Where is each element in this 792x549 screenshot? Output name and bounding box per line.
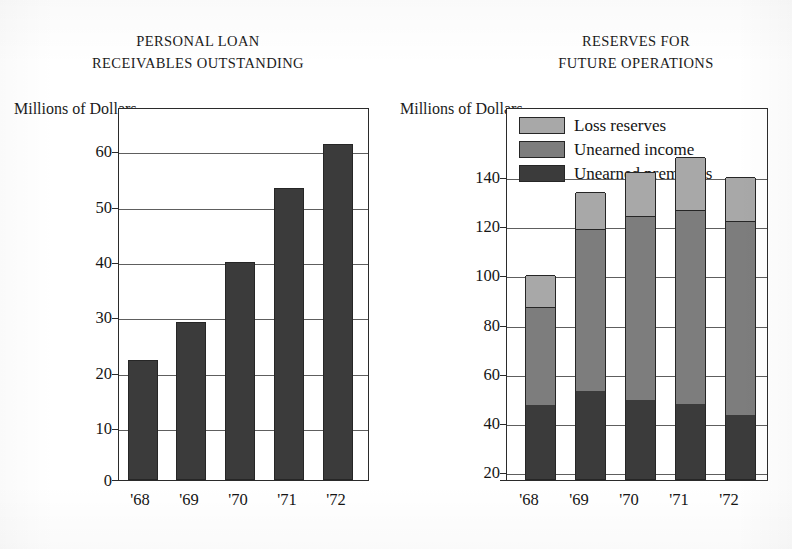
segment-loss-reserves-1968 [526, 275, 555, 307]
chart-title-reserves: RESERVES FOR FUTURE OPERATIONS [506, 30, 766, 74]
figure-page: PERSONAL LOAN RECEIVABLES OUTSTANDING Mi… [0, 0, 792, 549]
segment-loss-reserves-1970 [626, 172, 655, 216]
chart-title-personal-loan: PERSONAL LOAN RECEIVABLES OUTSTANDING [36, 30, 360, 74]
tickmark-40 [500, 424, 506, 425]
legend-item-loss-reserves[interactable]: Loss reserves [519, 114, 712, 136]
ytick-label-60: 60 [58, 144, 112, 161]
segment-unearned-premiums-1968 [526, 405, 555, 479]
y-axis-unit-label-left: Millions of Dollars [14, 99, 114, 120]
tickmark-80 [500, 326, 506, 327]
ytick-label-30: 30 [58, 310, 112, 327]
tickmark-100 [500, 276, 506, 277]
bar-1972 [323, 144, 353, 480]
tickmark-20 [500, 473, 506, 474]
ytick-label-120: 120 [436, 219, 500, 236]
ytick-label-40: 40 [436, 416, 500, 433]
segment-unearned-income-1971 [676, 210, 705, 404]
xtick-label-1972: '72 [303, 492, 369, 509]
legend-swatch-unearned-premiums-icon [519, 165, 565, 182]
segment-unearned-premiums-1972 [726, 415, 755, 479]
segment-loss-reserves-1971 [676, 157, 705, 210]
stacked-bar-1969 [575, 193, 606, 480]
tickmark-40 [112, 263, 118, 264]
bar-1971 [274, 188, 304, 480]
ytick-label-100: 100 [436, 268, 500, 285]
unit-line-1: Millions [14, 100, 68, 117]
legend-label-loss-reserves: Loss reserves [574, 117, 666, 134]
ytick-label-0: 0 [58, 473, 112, 490]
chart-panel-reserves: RESERVES FOR FUTURE OPERATIONS Millions … [396, 0, 792, 549]
stacked-bar-1968 [525, 276, 556, 480]
segment-unearned-income-1968 [526, 307, 555, 405]
tickmark-10 [112, 429, 118, 430]
segment-unearned-income-1972 [726, 221, 755, 415]
bar-1968 [128, 360, 158, 480]
tickmark-0 [112, 480, 118, 481]
tickmark-60 [500, 375, 506, 376]
stacked-bar-1971 [675, 158, 706, 480]
chart-title-line-1: RESERVES FOR [506, 30, 766, 52]
legend-label-unearned-income: Unearned income [574, 141, 694, 158]
tickmark-50 [112, 208, 118, 209]
plot-area-reserves: Loss reserves Unearned income Unearned p… [506, 108, 768, 481]
tickmark-60 [112, 152, 118, 153]
bar-1970 [225, 262, 255, 480]
segment-unearned-income-1970 [626, 216, 655, 400]
stacked-bar-1972 [725, 178, 756, 480]
chart-panel-personal-loan: PERSONAL LOAN RECEIVABLES OUTSTANDING Mi… [0, 0, 396, 549]
segment-unearned-premiums-1970 [626, 400, 655, 479]
chart-title-line-1: PERSONAL LOAN [36, 30, 360, 52]
segment-unearned-income-1969 [576, 229, 605, 391]
stacked-bar-1970 [625, 173, 656, 480]
ytick-label-20: 20 [58, 366, 112, 383]
tickmark-140 [500, 178, 506, 179]
ytick-label-80: 80 [436, 318, 500, 335]
segment-unearned-premiums-1969 [576, 391, 605, 479]
ytick-label-140: 140 [436, 170, 500, 187]
ytick-label-50: 50 [58, 200, 112, 217]
ytick-label-10: 10 [58, 421, 112, 438]
tickmark-30 [112, 318, 118, 319]
legend-swatch-unearned-income-icon [519, 141, 565, 158]
segment-loss-reserves-1972 [726, 177, 755, 221]
unit-line-1: Millions [400, 100, 454, 117]
tickmark-0 [500, 480, 506, 481]
tickmark-120 [500, 227, 506, 228]
segment-loss-reserves-1969 [576, 192, 605, 229]
chart-title-line-2: RECEIVABLES OUTSTANDING [36, 52, 360, 74]
ytick-label-60: 60 [436, 367, 500, 384]
legend-swatch-loss-reserves-icon [519, 117, 565, 134]
chart-title-line-2: FUTURE OPERATIONS [506, 52, 766, 74]
plot-area-personal-loan [118, 108, 369, 481]
segment-unearned-premiums-1971 [676, 404, 705, 479]
bar-1969 [176, 322, 206, 480]
y-axis-unit-label-right: Millions of Dollars [400, 99, 500, 120]
ytick-label-40: 40 [58, 255, 112, 272]
xtick-label-1972: '72 [696, 492, 762, 509]
tickmark-20 [112, 374, 118, 375]
